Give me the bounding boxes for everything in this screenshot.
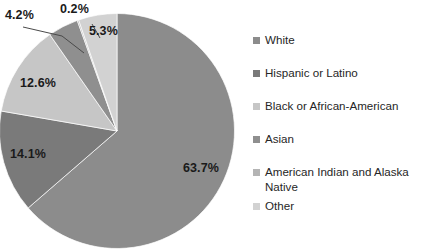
legend-item[interactable]: American Indian and Alaska Native bbox=[253, 165, 425, 194]
legend-item-label: Hispanic or Latino bbox=[265, 66, 358, 81]
legend-swatch-icon bbox=[253, 103, 260, 110]
legend-item[interactable]: Asian bbox=[253, 132, 294, 147]
legend-item-label: American Indian and Alaska Native bbox=[265, 165, 425, 194]
legend-item[interactable]: White bbox=[253, 33, 295, 48]
slice-label-american-indian: 0.2% bbox=[60, 2, 89, 16]
legend-swatch-icon bbox=[253, 37, 260, 44]
pie-slices-group bbox=[0, 14, 234, 249]
slice-label-asian: 4.2% bbox=[5, 8, 34, 22]
pie-svg bbox=[0, 0, 248, 252]
legend-swatch-icon bbox=[253, 136, 260, 143]
pie-chart-figure: 63.7% 14.1% 12.6% 4.2% 0.2% 5.3% WhiteHi… bbox=[0, 0, 430, 252]
legend-item-label: Asian bbox=[265, 132, 294, 147]
legend-item[interactable]: Hispanic or Latino bbox=[253, 66, 358, 81]
legend-swatch-icon bbox=[253, 169, 260, 176]
slice-label-hispanic: 14.1% bbox=[10, 147, 46, 161]
slice-label-white: 63.7% bbox=[183, 161, 219, 175]
legend-item[interactable]: Black or African-American bbox=[253, 99, 398, 114]
legend-item-label: Other bbox=[265, 199, 294, 214]
slice-label-black: 12.6% bbox=[20, 76, 56, 90]
legend-item[interactable]: Other bbox=[253, 199, 294, 214]
legend-item-label: Black or African-American bbox=[265, 99, 398, 114]
legend-item-label: White bbox=[265, 33, 295, 48]
slice-label-other: 5.3% bbox=[89, 24, 118, 38]
legend-swatch-icon bbox=[253, 70, 260, 77]
legend-swatch-icon bbox=[253, 203, 260, 210]
pie-plot-area: 63.7% 14.1% 12.6% 4.2% 0.2% 5.3% bbox=[0, 0, 248, 252]
